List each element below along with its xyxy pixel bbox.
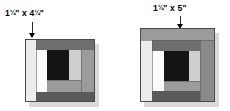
right-block-top-strip: [140, 28, 215, 40]
left-callout-arrowhead-icon: [29, 33, 35, 38]
left-block-bottom-strip: [36, 92, 95, 102]
right-block-inner-right-strip: [189, 51, 200, 81]
right-block-inner-top-strip: [152, 40, 200, 51]
right-block-inner-left-strip: [152, 51, 164, 91]
left-block-seam-horizontal-2: [47, 80, 81, 81]
left-block-inner-left-strip: [36, 50, 47, 92]
left-block-center-square: [47, 50, 69, 80]
right-block-seam-vertical-2: [200, 40, 201, 102]
right-block-seam-horizontal-2: [152, 91, 200, 92]
left-block-inner-bottom-strip: [47, 80, 81, 92]
log-cabin-block-left: [25, 39, 95, 102]
left-block-seam-vertical-2: [81, 50, 82, 92]
right-callout-label: 1¼" x 5": [153, 3, 187, 13]
right-block-seam-vertical-1: [152, 40, 153, 102]
left-callout-tail: ": [40, 8, 44, 18]
right-block-seam-horizontal-3: [164, 81, 200, 82]
left-callout-separator: " x 4: [15, 8, 34, 18]
left-block-right-strip: [81, 50, 95, 92]
left-callout-label: 1¼" x 4¼": [5, 8, 44, 18]
right-block-left-strip: [140, 40, 152, 102]
diagram-canvas: 1¼" x 4¼" 1¼" x 5": [0, 0, 230, 111]
right-block-center-square: [164, 51, 189, 81]
left-block-inner-right-strip: [69, 50, 81, 80]
left-block-left-strip: [25, 39, 36, 102]
left-block-seam-horizontal-1: [36, 92, 95, 93]
log-cabin-block-right: [140, 28, 215, 102]
right-block-inner-bottom-strip: [164, 81, 200, 91]
left-block-top-strip: [36, 39, 95, 50]
right-block-seam-horizontal-1: [140, 40, 215, 41]
right-block-bottom-strip: [152, 91, 200, 102]
right-callout-separator: " x 5": [163, 3, 186, 13]
right-block-right-strip: [200, 40, 215, 102]
